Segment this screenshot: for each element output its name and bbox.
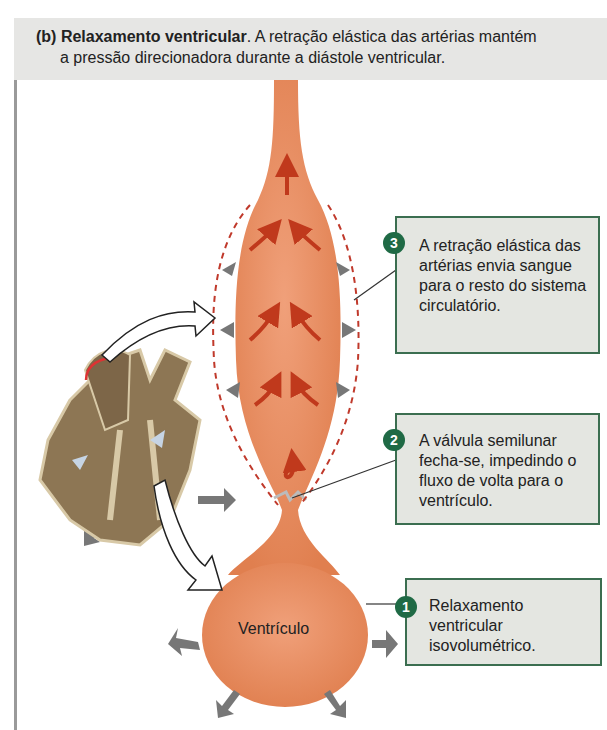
artery-shape: [228, 80, 341, 575]
callout-1: 1 Relaxamento ventricular isovolumétrico…: [405, 578, 602, 666]
callout-text: Relaxamento ventricular isovolumétrico.: [429, 596, 579, 656]
callout-text: A retração elástica das artérias envia s…: [419, 236, 589, 316]
callout-number-badge: 1: [395, 596, 417, 618]
callout-number-badge: 3: [383, 232, 405, 254]
callout-text: A válvula semilunar fecha-se, impedindo …: [419, 431, 591, 511]
ventricle-label: Ventrículo: [238, 620, 309, 638]
callout-number-badge: 2: [383, 429, 405, 451]
callout-3: 3 A retração elástica das artérias envia…: [395, 216, 600, 354]
callout-2: 2 A válvula semilunar fecha-se, impedind…: [395, 413, 600, 525]
